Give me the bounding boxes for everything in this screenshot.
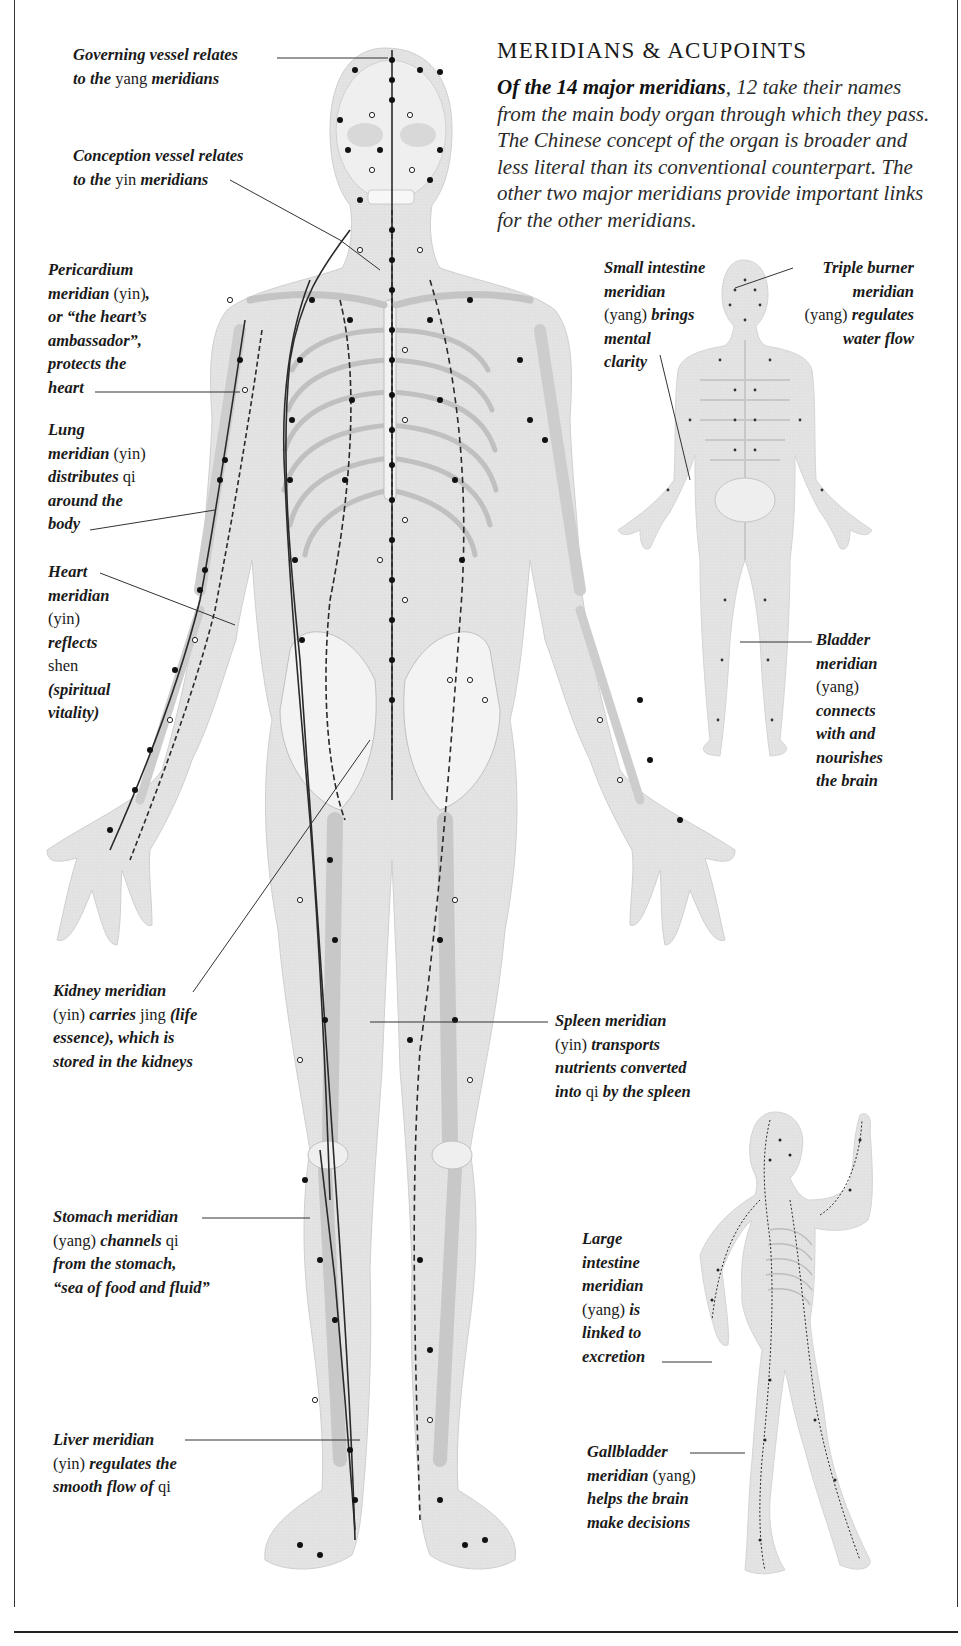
label-line: essence), which is [53,1026,197,1050]
label-text: ambassador”, [48,331,142,350]
label-line: Small intestine [604,256,705,280]
label-line: water flow [790,327,914,351]
label-line: Governing vessel relates [73,43,238,67]
label-text: make decisions [587,1513,690,1532]
label-text: qi [123,467,136,486]
label-text: intestine [582,1253,640,1272]
side-view-figure [700,1112,872,1574]
label-line: into qi by the spleen [555,1080,691,1104]
label-text: Liver meridian [53,1430,154,1449]
label-spleen-meridian: Spleen meridian(yin) transportsnutrients… [555,1009,691,1103]
label-line: Kidney meridian [53,979,197,1003]
label-text: (yin) [114,284,146,303]
label-stomach-meridian: Stomach meridian(yang) channels qifrom t… [53,1205,210,1299]
label-text: (yin) [53,1454,85,1473]
label-line: Pericardium [48,258,150,282]
label-text: carries [85,1005,140,1024]
label-text: (life [166,1005,198,1024]
label-line: meridian [604,280,705,304]
label-text: (yin) [48,609,80,628]
label-line: heart [48,376,150,400]
label-line: with and [816,722,883,746]
label-text: nutrients converted [555,1058,687,1077]
label-line: meridian [790,280,914,304]
meridian-illustrations [0,0,961,1610]
label-text: essence), which is [53,1028,174,1047]
label-text: body [48,514,80,533]
label-bladder-meridian: Bladdermeridian(yang)connectswith andnou… [816,628,883,793]
label-line: intestine [582,1251,645,1275]
label-line: meridian [48,584,110,608]
label-text: shen [48,656,78,675]
label-line: (yang) is [582,1298,645,1322]
label-text: nourishes [816,748,883,767]
label-line: (yin) regulates the [53,1452,177,1476]
label-line: Spleen meridian [555,1009,691,1033]
label-text: Triple burner [822,258,914,277]
label-line: smooth flow of qi [53,1475,177,1499]
label-line: to the yang meridians [73,67,238,91]
label-kidney-meridian: Kidney meridian(yin) carries jing (lifee… [53,979,197,1073]
label-text: (yang) [816,677,859,696]
label-line: Lung [48,418,146,442]
label-text: into [555,1082,586,1101]
label-heart-meridian: Heartmeridian(yin)reflectsshen(spiritual… [48,560,110,725]
label-text: around the [48,491,123,510]
label-text: distributes [48,467,123,486]
label-line: (yin) transports [555,1033,691,1057]
label-text: to the [73,69,115,88]
label-line: around the [48,489,146,513]
label-text: regulates [848,305,914,324]
label-text: smooth flow of [53,1477,158,1496]
label-line: Gallbladder [587,1440,696,1464]
label-line: ambassador”, [48,329,150,353]
label-line: from the stomach, [53,1252,210,1276]
label-text: reflects [48,633,97,652]
label-text: meridians [147,69,219,88]
label-line: the brain [816,769,883,793]
label-text: with and [816,724,875,743]
label-line: to the yin meridians [73,168,243,192]
label-line: Heart [48,560,110,584]
label-text: qi [166,1231,179,1250]
label-liver-meridian: Liver meridian(yin) regulates thesmooth … [53,1428,177,1499]
label-text: (yang) [804,305,847,324]
label-line: mental [604,327,705,351]
label-text: Small intestine [604,258,705,277]
label-pericardium-meridian: Pericardiummeridian (yin),or “the heart’… [48,258,150,399]
label-text: (yang) [53,1231,96,1250]
label-text: mental [604,329,651,348]
label-text: Kidney meridian [53,981,166,1000]
label-line: linked to [582,1321,645,1345]
label-line: reflects [48,631,110,655]
label-text: stored in the kidneys [53,1052,193,1071]
label-text: (yin) [555,1035,587,1054]
label-line: vitality) [48,701,110,725]
label-line: meridian [816,652,883,676]
label-line: (yang) brings [604,303,705,327]
label-text: helps the brain [587,1489,689,1508]
label-text: yang [115,69,147,88]
label-text: meridian [582,1276,643,1295]
page-bottom-rule [14,1631,958,1633]
label-text: Conception vessel relates [73,146,243,165]
label-line: Conception vessel relates [73,144,243,168]
label-text: Bladder [816,630,870,649]
label-text: linked to [582,1323,641,1342]
label-governing-vessel: Governing vessel relatesto the yang meri… [73,43,238,90]
label-text: connects [816,701,876,720]
label-large-intestine-meridian: Largeintestinemeridian(yang) islinked to… [582,1227,645,1368]
label-line: clarity [604,350,705,374]
label-text: channels [96,1231,166,1250]
label-line: (yang) regulates [790,303,914,327]
label-line: meridian (yin) [48,442,146,466]
label-text: meridian [853,282,914,301]
label-line: body [48,512,146,536]
label-text: heart [48,378,84,397]
label-text: excretion [582,1347,645,1366]
label-text: meridian [816,654,877,673]
label-text: (yang) [604,305,647,324]
label-text: (yin) [114,444,146,463]
label-line: Large [582,1227,645,1251]
label-text: protects the [48,354,126,373]
